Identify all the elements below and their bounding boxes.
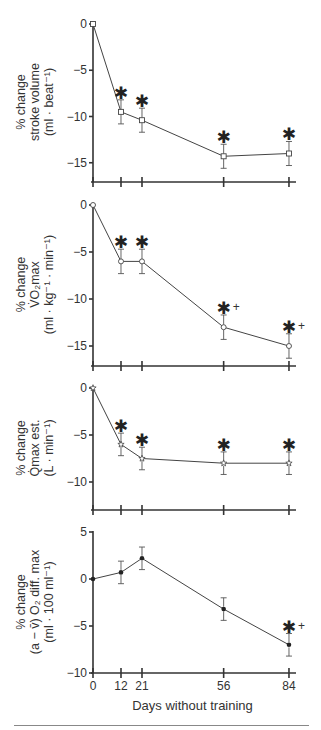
data-point-marker xyxy=(91,203,96,208)
x-axis-label: Days without training xyxy=(132,698,253,713)
y-tick-label: 0 xyxy=(80,572,87,586)
y-tick-label: 5 xyxy=(80,525,87,539)
significance-asterisk: ✱ xyxy=(135,232,149,252)
data-point-marker xyxy=(221,607,226,612)
significance-asterisk: ✱ xyxy=(282,435,296,455)
data-point-marker xyxy=(286,151,291,156)
x-tick-label: 0 xyxy=(90,679,97,693)
y-tick-label: −5 xyxy=(73,63,87,77)
significance-asterisk: ✱ xyxy=(282,124,296,144)
data-point-marker xyxy=(140,556,145,561)
data-point-marker xyxy=(221,325,226,330)
significance-plus: + xyxy=(298,619,305,633)
y-tick-label: −5 xyxy=(73,428,87,442)
y-tick-label: −10 xyxy=(67,292,88,306)
panel-4: 50−5−10% change(a − v̄) O₂ diff. max(ml … xyxy=(14,525,305,680)
y-tick-label: −10 xyxy=(67,666,88,680)
y-tick-label: 0 xyxy=(80,198,87,212)
data-point-marker xyxy=(221,460,227,466)
detraining-chart: 0−5−10−15% changestroke volume(ml · beat… xyxy=(0,0,321,730)
data-point-marker xyxy=(139,455,145,461)
series-line xyxy=(93,205,289,346)
caption-divider xyxy=(14,725,309,726)
panel-2: 0−5−10−15% changeV̇O₂max(ml · kg⁻¹ · min… xyxy=(14,198,305,371)
y-axis-label: % changestroke volume(ml · beat⁻¹) xyxy=(14,63,56,141)
significance-asterisk: ✱ xyxy=(135,91,149,111)
significance-plus: + xyxy=(298,319,305,333)
y-tick-label: 0 xyxy=(80,17,87,31)
significance-asterisk: ✱ xyxy=(217,127,231,147)
significance-asterisk: ✱ xyxy=(114,416,128,436)
y-tick-label: −5 xyxy=(73,619,87,633)
data-point-marker xyxy=(119,570,124,575)
significance-asterisk: ✱ xyxy=(114,83,128,103)
y-axis-label: % change(a − v̄) O₂ diff. max(ml · 100 m… xyxy=(14,549,56,654)
significance-asterisk: ✱ xyxy=(135,430,149,450)
data-point-marker xyxy=(118,109,123,114)
significance-asterisk: ✱ xyxy=(114,232,128,252)
data-point-marker xyxy=(286,460,292,466)
significance-plus: + xyxy=(233,300,240,314)
significance-asterisk: ✱ xyxy=(282,317,296,337)
y-axis-label: % changeV̇O₂max(ml · kg⁻¹ · min⁻¹) xyxy=(14,235,56,334)
x-tick-label: 21 xyxy=(135,679,149,693)
y-tick-label: −10 xyxy=(67,475,88,489)
data-point-marker xyxy=(90,385,96,391)
data-point-marker xyxy=(286,344,291,349)
y-tick-label: −15 xyxy=(67,156,88,170)
data-point-marker xyxy=(118,259,123,264)
y-tick-label: −5 xyxy=(73,245,87,259)
y-tick-label: −10 xyxy=(67,110,88,124)
data-point-marker xyxy=(221,154,226,159)
data-point-marker xyxy=(91,577,96,582)
x-tick-label: 12 xyxy=(114,679,128,693)
y-tick-label: −15 xyxy=(67,339,88,353)
y-tick-label: 0 xyxy=(80,381,87,395)
x-tick-label: 56 xyxy=(217,679,231,693)
panel-3: 0−5−10% changeQ̇max est.(L · min⁻¹)✱✱✱✱ xyxy=(14,381,296,515)
x-tick-label: 84 xyxy=(282,679,296,693)
data-point-marker xyxy=(139,259,144,264)
significance-asterisk: ✱ xyxy=(217,298,231,318)
panel-1: 0−5−10−15% changestroke volume(ml · beat… xyxy=(14,17,296,187)
significance-asterisk: ✱ xyxy=(217,435,231,455)
y-axis-label: % changeQ̇max est.(L · min⁻¹) xyxy=(14,419,56,476)
significance-asterisk: ✱ xyxy=(282,617,296,637)
data-point-marker xyxy=(139,118,144,123)
data-point-marker xyxy=(287,643,292,648)
data-point-marker xyxy=(91,22,96,27)
